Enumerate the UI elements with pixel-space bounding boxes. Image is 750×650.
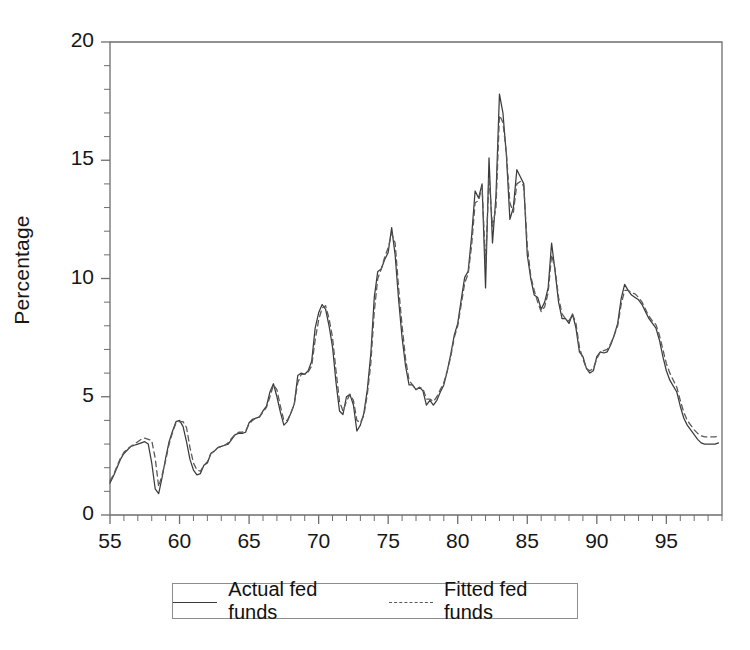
y-tick-label: 10 (48, 265, 94, 289)
y-tick-label: 0 (48, 501, 94, 525)
legend-item-fitted: Fitted fed funds (389, 578, 577, 624)
legend-item-actual: Actual fed funds (173, 578, 367, 624)
chart-figure: Percentage 05101520 556065707580859095 A… (0, 0, 750, 650)
x-tick-label: 75 (358, 529, 418, 553)
series-lines (110, 94, 719, 494)
x-tick-label: 95 (636, 529, 696, 553)
legend-label-actual: Actual fed funds (228, 578, 366, 624)
series-line-actual (110, 94, 719, 494)
x-tick-label: 65 (219, 529, 279, 553)
x-tick-label: 70 (289, 529, 349, 553)
y-tick-label: 20 (48, 28, 94, 52)
legend-label-fitted: Fitted fed funds (444, 578, 577, 624)
y-tick-label: 5 (48, 383, 94, 407)
axis-frame (110, 42, 722, 515)
dashed-line-icon (389, 602, 433, 603)
x-tick-label: 60 (150, 529, 210, 553)
x-tick-label: 80 (428, 529, 488, 553)
axis-ticks (101, 42, 722, 524)
solid-line-icon (173, 602, 217, 603)
y-tick-label: 15 (48, 146, 94, 170)
x-tick-label: 55 (80, 529, 140, 553)
x-tick-label: 90 (567, 529, 627, 553)
y-axis-title: Percentage (10, 170, 34, 370)
series-line-fitted (110, 115, 719, 486)
chart-legend: Actual fed funds Fitted fed funds (172, 583, 578, 619)
x-tick-label: 85 (497, 529, 557, 553)
